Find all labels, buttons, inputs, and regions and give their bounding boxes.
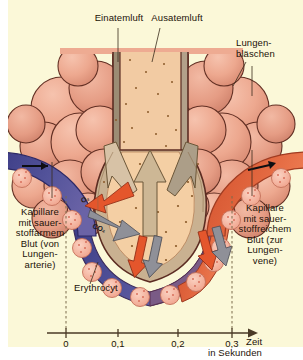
lung-alveoli-diagram: O₂ CO₂ bbox=[0, 0, 303, 360]
axis-tick-2: 0,2 bbox=[166, 339, 190, 350]
cap-left-line6: arterie) bbox=[4, 260, 76, 271]
axis-title-line1: Zeit bbox=[246, 337, 303, 348]
cap-left-line5: Lungen- bbox=[4, 249, 76, 260]
cap-left-line1: Kapillare bbox=[4, 207, 76, 218]
axis-tick-1: 0,1 bbox=[106, 339, 130, 350]
axis-title: Zeit in Sekunden bbox=[246, 337, 303, 358]
cap-right-line3: stoffreichem bbox=[228, 224, 302, 235]
erythrocyte-text: Erythrocyt bbox=[74, 282, 118, 293]
alveoli-text-line2: bläschen bbox=[236, 49, 298, 60]
cap-right-line5: Lungen- bbox=[228, 245, 302, 256]
time-axis bbox=[47, 328, 258, 338]
alveoli-text-line1: Lungen- bbox=[236, 38, 298, 49]
label-exhaled-air: Ausatemluft bbox=[134, 13, 220, 24]
tick-label-1: 0,1 bbox=[111, 338, 125, 349]
axis-title-line2: in Sekunden bbox=[208, 348, 303, 359]
tick-label-2: 0,2 bbox=[171, 338, 185, 349]
axis-tick-0: 0 bbox=[56, 339, 76, 350]
exhaled-air-text: Ausatemluft bbox=[151, 12, 202, 23]
label-alveoli: Lungen- bläschen bbox=[236, 38, 298, 59]
label-erythrocyte: Erythrocyt bbox=[74, 283, 148, 294]
cap-right-line1: Kapillare bbox=[228, 203, 302, 214]
cap-left-line3: stoffarmem bbox=[4, 228, 76, 239]
label-capillary-oxygenated: Kapillare mit sauer- stoffreichem Blut (… bbox=[228, 203, 302, 266]
cap-right-line6: vene) bbox=[228, 256, 302, 267]
tick-label-0: 0 bbox=[63, 338, 68, 349]
bronchiole-top bbox=[113, 52, 188, 152]
label-capillary-deoxygenated: Kapillare mit sauer- stoffarmem Blut (vo… bbox=[4, 207, 76, 270]
